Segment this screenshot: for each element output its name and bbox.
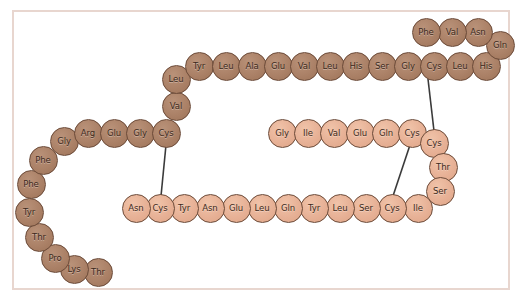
residue-gly: Gly	[394, 52, 423, 81]
residue-label: Asn	[202, 203, 217, 213]
residue-his: His	[342, 52, 371, 81]
residue-label: Thr	[436, 162, 450, 172]
residue-label: Val	[298, 61, 310, 71]
residue-label: Leu	[323, 61, 338, 71]
residue-label: Arg	[81, 128, 95, 138]
residue-label: Ile	[413, 203, 423, 213]
residue-ala: Ala	[238, 52, 267, 81]
residue-label: Leu	[453, 61, 468, 71]
residue-label: Ala	[245, 61, 258, 71]
residue-label: Val	[170, 101, 182, 111]
residue-label: Tyr	[308, 203, 320, 213]
residue-cys: Cys	[420, 52, 449, 81]
residue-label: Glu	[271, 61, 285, 71]
residue-label: Thr	[91, 267, 105, 277]
residue-gln: Gln	[372, 119, 401, 148]
residue-gly: Gly	[126, 119, 155, 148]
residue-label: Asn	[128, 203, 143, 213]
residue-label: Asn	[470, 27, 485, 37]
residue-val: Val	[162, 92, 191, 121]
residue-label: Tyr	[178, 203, 190, 213]
residue-label: Gln	[379, 128, 393, 138]
residue-label: His	[350, 61, 363, 71]
residue-label: Phe	[23, 179, 38, 189]
residue-label: Gly	[275, 128, 289, 138]
residue-leu: Leu	[316, 52, 345, 81]
residue-thr: Thr	[25, 223, 54, 252]
residue-asn: Asn	[122, 194, 151, 223]
residue-label: Leu	[255, 203, 270, 213]
residue-tyr: Tyr	[15, 198, 44, 227]
residue-glu: Glu	[222, 194, 251, 223]
residue-label: Cys	[158, 128, 173, 138]
residue-leu: Leu	[326, 194, 355, 223]
residue-label: Ser	[433, 186, 447, 196]
residue-label: His	[480, 61, 493, 71]
residue-label: Glu	[229, 203, 243, 213]
residue-leu: Leu	[248, 194, 277, 223]
residue-label: Val	[446, 27, 458, 37]
residue-label: Val	[328, 128, 340, 138]
peptide-diagram: ThrLysProThrTyrPhePheGlyArgGluGlyCysValL…	[0, 0, 526, 305]
residue-label: Glu	[107, 128, 121, 138]
residue-label: Leu	[219, 61, 234, 71]
residue-label: Pro	[48, 253, 61, 263]
residue-label: Gly	[133, 128, 147, 138]
residue-label: Lys	[67, 264, 80, 274]
residue-cys: Cys	[152, 119, 181, 148]
residue-gln: Gln	[274, 194, 303, 223]
residue-label: Leu	[169, 74, 184, 84]
residue-label: Leu	[333, 203, 348, 213]
residue-val: Val	[438, 18, 467, 47]
residue-label: Glu	[353, 128, 367, 138]
residue-label: Thr	[32, 232, 46, 242]
residue-label: Cys	[404, 128, 419, 138]
residue-asn: Asn	[196, 194, 225, 223]
residue-arg: Arg	[74, 119, 103, 148]
residue-tyr: Tyr	[300, 194, 329, 223]
residue-label: Gln	[493, 40, 507, 50]
residue-ile: Ile	[404, 194, 433, 223]
residue-asn: Asn	[464, 18, 493, 47]
residue-cys: Cys	[378, 194, 407, 223]
residue-label: Phe	[418, 27, 433, 37]
residue-ile: Ile	[294, 119, 323, 148]
residue-ser: Ser	[368, 52, 397, 81]
residue-glu: Glu	[100, 119, 129, 148]
residue-val: Val	[290, 52, 319, 81]
residue-label: Gly	[401, 61, 415, 71]
residue-label: Tyr	[193, 61, 205, 71]
residue-label: Ser	[375, 61, 389, 71]
residue-label: Phe	[35, 155, 50, 165]
residue-glu: Glu	[264, 52, 293, 81]
residue-label: Ile	[303, 128, 313, 138]
residue-label: Cys	[384, 203, 399, 213]
residue-gly: Gly	[268, 119, 297, 148]
residue-leu: Leu	[446, 52, 475, 81]
residue-label: Gln	[281, 203, 295, 213]
residue-ser: Ser	[352, 194, 381, 223]
residue-label: Cys	[426, 61, 441, 71]
residue-label: Cys	[152, 203, 167, 213]
residue-label: Cys	[426, 138, 441, 148]
residue-leu: Leu	[212, 52, 241, 81]
residue-label: Tyr	[23, 207, 35, 217]
residue-label: Gly	[57, 136, 71, 146]
residue-glu: Glu	[346, 119, 375, 148]
residue-val: Val	[320, 119, 349, 148]
residue-phe: Phe	[412, 18, 441, 47]
residue-tyr: Tyr	[185, 52, 214, 81]
residue-label: Ser	[359, 203, 373, 213]
